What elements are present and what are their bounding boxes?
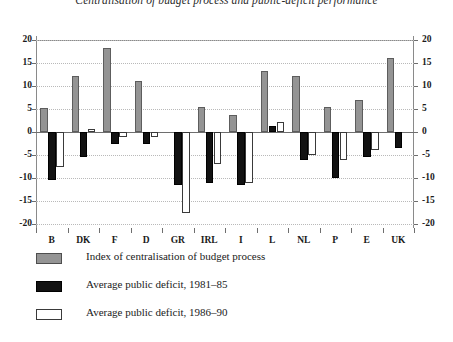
y-axis-label: 5: [27, 104, 32, 114]
x-tick: [225, 228, 226, 233]
y-axis-label: 5: [422, 104, 427, 114]
legend-swatch-gray: [36, 253, 62, 264]
chart-legend: Index of centralisation of budget proces…: [36, 249, 436, 333]
x-axis-label-uk: UK: [383, 236, 415, 246]
y-axis-label: 15: [422, 58, 432, 68]
x-axis-label-irl: IRL: [194, 236, 226, 246]
bar-group: [351, 40, 383, 224]
bar-group: [383, 40, 415, 224]
bar-group: [288, 40, 320, 224]
bar: [80, 132, 88, 157]
y-axis-label: 10: [23, 81, 33, 91]
bar-group: [68, 40, 100, 224]
y-tick: [32, 224, 36, 225]
y-axis-label: -10: [19, 173, 32, 183]
x-axis-label-b: B: [36, 236, 68, 246]
bar: [143, 132, 151, 144]
y-axis-label: -15: [19, 196, 32, 206]
legend-label: Average public deficit, 1986–90: [86, 306, 228, 318]
y-axis-label: -20: [422, 219, 435, 229]
x-tick: [257, 228, 258, 233]
y-axis-label: 0: [27, 127, 32, 137]
bar-group: [131, 40, 163, 224]
x-tick: [288, 228, 289, 233]
bar-group: [320, 40, 352, 224]
y-tick: [414, 86, 418, 87]
bar: [308, 132, 316, 155]
bar: [182, 132, 190, 213]
bar: [269, 126, 277, 132]
bar-group: [225, 40, 257, 224]
bar: [300, 132, 308, 160]
bar-group: [194, 40, 226, 224]
bar: [371, 132, 379, 150]
legend-label: Average public deficit, 1981–85: [86, 278, 228, 290]
x-tick: [414, 228, 415, 233]
bar: [151, 132, 159, 137]
bar: [237, 132, 245, 185]
x-tick: [36, 228, 37, 233]
x-tick: [320, 228, 321, 233]
bar: [332, 132, 340, 178]
gridline: [36, 224, 414, 225]
bar: [292, 76, 300, 132]
y-tick: [414, 155, 418, 156]
bar-group: [162, 40, 194, 224]
x-axis-label-f: F: [99, 236, 131, 246]
legend-label: Index of centralisation of budget proces…: [86, 250, 265, 262]
x-tick: [194, 228, 195, 233]
x-axis-label-e: E: [351, 236, 383, 246]
y-tick: [414, 201, 418, 202]
bar: [48, 132, 56, 180]
bar: [111, 132, 119, 144]
y-tick: [414, 109, 418, 110]
y-axis-label: 10: [422, 81, 432, 91]
chart-title: Centralisation of budget process and pub…: [0, 0, 453, 6]
y-axis-label: -20: [19, 219, 32, 229]
y-axis-label: 20: [23, 35, 33, 45]
x-axis-label-l: L: [257, 236, 289, 246]
x-tick: [383, 228, 384, 233]
legend-item: Index of centralisation of budget proces…: [36, 249, 436, 277]
bar: [56, 132, 64, 167]
y-axis-label: -10: [422, 173, 435, 183]
bar: [103, 48, 111, 132]
x-axis-label-d: D: [131, 236, 163, 246]
bar: [277, 122, 285, 132]
y-tick: [414, 178, 418, 179]
x-axis-label-i: I: [225, 236, 257, 246]
bar: [324, 107, 332, 132]
bar: [135, 81, 143, 132]
legend-item: Average public deficit, 1981–85: [36, 277, 436, 305]
figure: Centralisation of budget process and pub…: [0, 0, 453, 342]
y-axis-label: 0: [422, 127, 427, 137]
bar: [355, 100, 363, 132]
bar: [214, 132, 222, 164]
legend-swatch-white: [36, 309, 62, 320]
y-axis-label: -5: [422, 150, 430, 160]
bar: [72, 76, 80, 132]
bar-group: [36, 40, 68, 224]
bar: [261, 71, 269, 132]
bar: [395, 132, 403, 148]
bar: [88, 129, 96, 132]
bar: [40, 108, 48, 132]
bar: [245, 132, 253, 183]
legend-swatch-black: [36, 281, 62, 292]
x-axis-label-gr: GR: [162, 236, 194, 246]
x-axis-label-p: P: [320, 236, 352, 246]
x-axis-label-nl: NL: [288, 236, 320, 246]
bar: [206, 132, 214, 183]
y-axis-label: 15: [23, 58, 33, 68]
y-axis-label: 20: [422, 35, 432, 45]
bar: [174, 132, 182, 185]
bar: [119, 132, 127, 137]
bar: [363, 132, 371, 157]
y-tick: [414, 132, 418, 133]
bar-group: [257, 40, 289, 224]
x-tick: [131, 228, 132, 233]
x-tick: [99, 228, 100, 233]
x-tick: [162, 228, 163, 233]
bar: [198, 107, 206, 132]
bar-group: [99, 40, 131, 224]
